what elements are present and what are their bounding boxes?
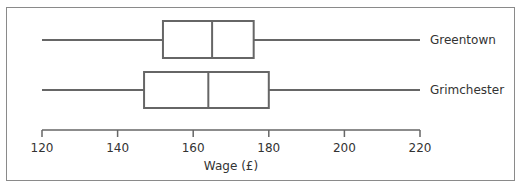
box-iqr (144, 72, 269, 108)
tick-label: 180 (257, 141, 280, 155)
tick-label: 120 (31, 141, 54, 155)
series-label: Grimchester (430, 83, 504, 97)
tick-label: 220 (409, 141, 432, 155)
x-axis-label: Wage (£) (204, 159, 258, 173)
tick-label: 200 (333, 141, 356, 155)
box-plot-grimchester: Grimchester (42, 72, 504, 108)
box-iqr (163, 21, 254, 58)
boxplot-chart: GreentownGrimchester 120140160180200220 … (0, 0, 522, 189)
tick-label: 160 (182, 141, 205, 155)
box-plots: GreentownGrimchester (42, 21, 504, 108)
tick-label: 140 (106, 141, 129, 155)
box-plot-greentown: Greentown (42, 21, 496, 58)
x-axis: 120140160180200220 (31, 130, 432, 155)
series-label: Greentown (430, 33, 496, 47)
